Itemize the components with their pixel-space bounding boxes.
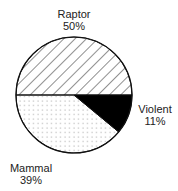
label-mammal: Mammal [10, 162, 52, 174]
label-raptor: Raptor [57, 8, 90, 20]
pie-slice-raptor [16, 37, 132, 95]
percent-raptor: 50% [63, 20, 85, 32]
label-violent: Violent [138, 103, 171, 115]
pie-chart: Raptor 50% Violent 11% Mammal 39% [0, 0, 178, 191]
percent-mammal: 39% [20, 174, 42, 186]
percent-violent: 11% [144, 115, 165, 127]
